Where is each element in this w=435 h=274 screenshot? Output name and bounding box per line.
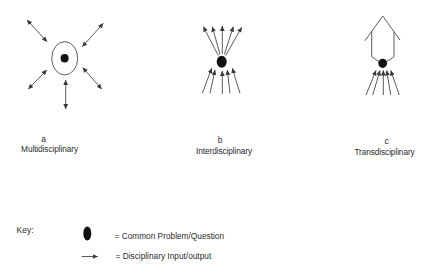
diagram-b-letter: b <box>218 136 223 145</box>
arrow-icon <box>202 68 211 93</box>
key-title: Key: <box>17 226 34 235</box>
key-graphic <box>82 227 98 257</box>
arrow-icon <box>210 70 215 93</box>
arrow-icon <box>232 68 240 93</box>
arrow-icon <box>373 71 380 96</box>
double-arrow-icon <box>27 20 47 42</box>
key-common-problem-text: = Common Problem/Question <box>115 232 225 240</box>
diagram-a-letter: a <box>41 135 46 144</box>
transcending-arrow-outline <box>365 16 400 41</box>
double-arrow-icon <box>82 23 103 46</box>
common-problem-dot <box>61 54 69 62</box>
diagram-b-graphic <box>202 26 241 94</box>
key-disciplinary-input-text: = Disciplinary Input/output <box>116 252 212 260</box>
diagram-c-graphic <box>365 16 400 95</box>
arrow-icon <box>212 27 220 55</box>
diagram-c-label: Transdisciplinary <box>354 148 414 156</box>
common-problem-dot <box>217 56 227 68</box>
arrow-icon <box>387 71 391 96</box>
diagram-a-label: Multidisciplinary <box>21 145 78 153</box>
double-arrow-icon <box>28 70 46 89</box>
diagram-c-letter: c <box>384 137 388 146</box>
double-arrow-icon <box>83 68 102 89</box>
arrow-icon <box>366 71 376 96</box>
common-problem-dot <box>378 59 387 68</box>
transcending-arrow-outline <box>386 32 394 62</box>
transcending-arrow-outline <box>372 31 380 62</box>
arrow-icon <box>227 70 230 93</box>
arrow-icon <box>391 71 400 96</box>
diagram-a-graphic <box>27 20 103 109</box>
diagram-b-label: Interdisciplinary <box>196 147 252 155</box>
key-dot-icon <box>83 227 91 241</box>
